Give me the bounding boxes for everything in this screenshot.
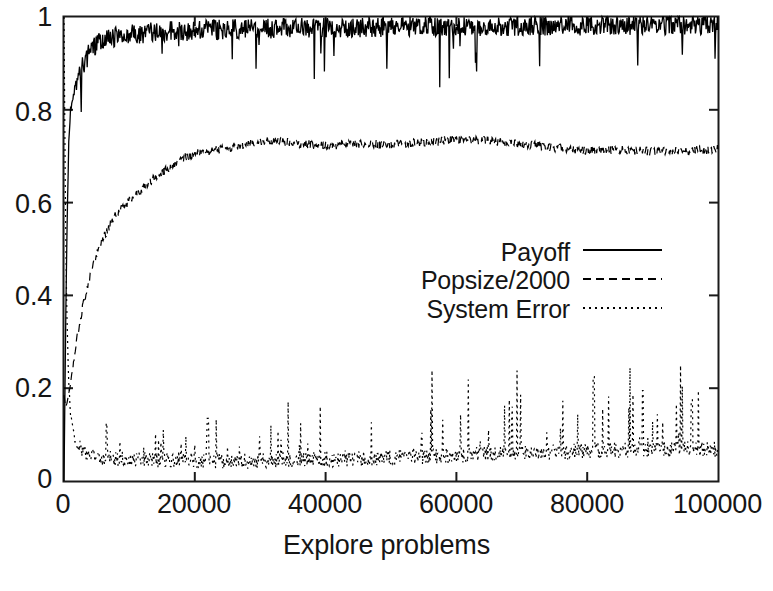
x-tick-label-60000: 60000 <box>386 489 526 520</box>
y-tick-label-0-8: 0.8 <box>0 97 52 128</box>
chart-figure: 1 0.8 0.6 0.4 0.2 0 0 20000 40000 60000 … <box>0 0 773 591</box>
legend-label-payoff: Payoff <box>330 238 570 267</box>
legend-label-system-error: System Error <box>330 295 570 324</box>
x-tick-label-80000: 80000 <box>517 489 657 520</box>
legend-label-popsize: Popsize/2000 <box>330 266 570 295</box>
y-tick-label-1: 1 <box>0 2 52 33</box>
x-tick-label-20000: 20000 <box>124 489 264 520</box>
x-tick-label-100000: 100000 <box>640 489 773 520</box>
y-tick-label-0-6: 0.6 <box>0 189 52 220</box>
legend-line-samples <box>583 250 662 308</box>
y-tick-label-0-4: 0.4 <box>0 281 52 312</box>
x-axis-label: Explore problems <box>0 530 773 561</box>
x-tick-label-40000: 40000 <box>255 489 395 520</box>
y-tick-label-0-2: 0.2 <box>0 373 52 404</box>
x-tick-label-0: 0 <box>13 489 113 520</box>
